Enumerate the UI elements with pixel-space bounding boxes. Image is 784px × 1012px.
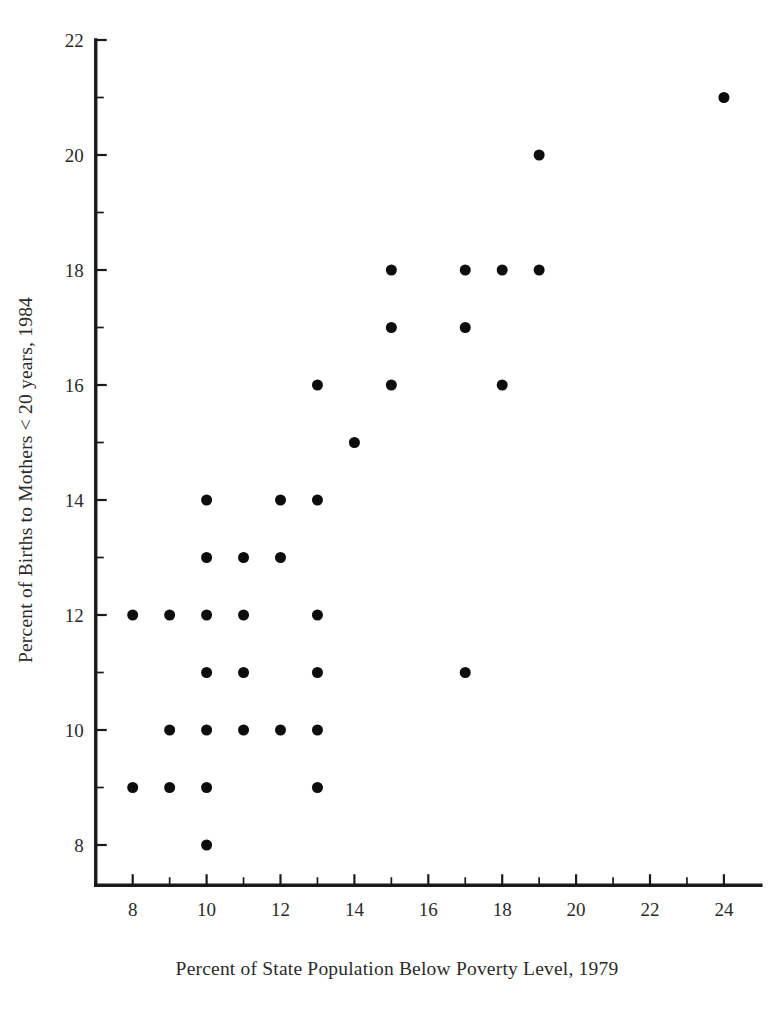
y-axis-title: Percent of Births to Mothers < 20 years,… [15,297,36,663]
y-axis-tick-labels: 810121416182022 [65,30,85,856]
data-point [275,552,286,563]
x-tick-label: 16 [419,899,438,920]
x-tick-label: 24 [714,899,734,920]
data-point [718,92,729,103]
data-point [460,322,471,333]
data-point [534,265,545,276]
data-point [497,380,508,391]
data-point [238,725,249,736]
data-point [201,552,212,563]
data-point [386,265,397,276]
data-point [201,667,212,678]
axes-layer [96,40,761,885]
x-tick-label: 22 [641,899,660,920]
y-tick-label: 8 [74,835,84,856]
x-axis-tick-labels: 81012141618202224 [128,899,734,920]
y-tick-label: 16 [65,375,84,396]
scatter-plot-figure: 81012141618202224 810121416182022 Percen… [0,0,784,1012]
data-point [201,495,212,506]
y-tick-label: 22 [65,30,84,51]
data-point [349,437,360,448]
data-point [386,322,397,333]
data-point [201,840,212,851]
data-point [312,380,323,391]
y-tick-label: 14 [65,490,85,511]
data-point [312,725,323,736]
data-point [534,150,545,161]
data-point [275,495,286,506]
data-point [201,610,212,621]
data-point [164,725,175,736]
data-point [312,667,323,678]
data-point [238,552,249,563]
data-point [497,265,508,276]
y-tick-label: 18 [65,260,84,281]
data-point [460,667,471,678]
data-point [127,782,138,793]
data-point [460,265,471,276]
data-point [312,782,323,793]
x-tick-label: 12 [271,899,290,920]
y-tick-label: 12 [65,605,84,626]
x-tick-label: 14 [345,899,365,920]
data-point [127,610,138,621]
x-tick-label: 10 [197,899,216,920]
data-point [312,610,323,621]
x-tick-label: 20 [567,899,586,920]
data-point [238,610,249,621]
x-tick-label: 8 [128,899,138,920]
data-point [312,495,323,506]
data-point [164,610,175,621]
x-tick-label: 18 [493,899,512,920]
data-point [201,725,212,736]
scatter-plot-canvas: 81012141618202224 810121416182022 Percen… [0,0,784,1012]
y-tick-label: 20 [65,145,84,166]
data-point [275,725,286,736]
data-point [201,782,212,793]
data-point [238,667,249,678]
y-tick-label: 10 [65,720,84,741]
x-axis-title: Percent of State Population Below Povert… [176,958,619,979]
data-point [386,380,397,391]
data-points-layer [127,92,729,851]
data-point [164,782,175,793]
